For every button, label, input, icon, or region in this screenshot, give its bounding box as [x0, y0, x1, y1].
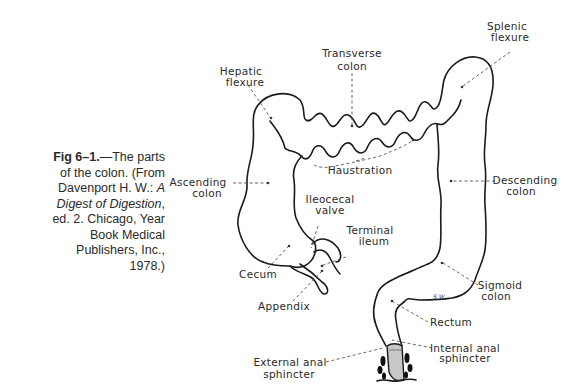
svg-text:sphincter: sphincter	[439, 352, 491, 364]
svg-text:colon: colon	[192, 187, 222, 199]
ascending-inner-wall	[263, 156, 316, 267]
colon-outline	[238, 57, 493, 381]
label-appendix: Appendix	[258, 300, 310, 312]
svg-text:flexure: flexure	[491, 31, 529, 43]
svg-text:flexure: flexure	[226, 76, 264, 88]
label-cecum: Cecum	[239, 268, 277, 280]
descending-inner-wall	[428, 124, 441, 264]
svg-text:sphincter: sphincter	[263, 368, 315, 380]
anal-canal	[387, 344, 404, 381]
appendix-shape	[290, 264, 328, 294]
artist-signature: S.W.	[433, 293, 446, 300]
label-external-anal-sphincter: External anal	[253, 356, 326, 368]
structure-labels: Transverse colon Splenic flexure Hepatic…	[169, 20, 557, 380]
label-rectum: Rectum	[430, 316, 472, 328]
colon-diagram: Transverse colon Splenic flexure Hepatic…	[0, 0, 571, 392]
svg-text:colon: colon	[337, 60, 367, 72]
svg-text:colon: colon	[481, 290, 511, 302]
label-transverse-colon: Transverse	[321, 47, 382, 59]
sigmoid-inner	[395, 302, 404, 346]
label-haustration: Haustration	[328, 164, 393, 176]
svg-text:valve: valve	[315, 204, 345, 216]
svg-text:colon: colon	[506, 185, 536, 197]
svg-text:ileum: ileum	[359, 235, 390, 247]
